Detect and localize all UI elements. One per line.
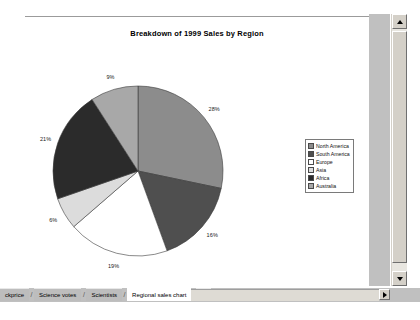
slice-label-asia: 6% xyxy=(49,217,57,223)
slice-label-north-america: 28% xyxy=(209,106,220,112)
legend-color-swatch-icon xyxy=(308,159,314,165)
legend-item-label: Australia xyxy=(316,182,336,190)
window-bottom-margin xyxy=(0,302,420,320)
sheet-tab-science-votes[interactable]: Science votes xyxy=(34,288,81,301)
window-right-margin xyxy=(407,0,420,320)
vertical-scrollbar[interactable] xyxy=(390,14,408,286)
scroll-up-button[interactable] xyxy=(392,14,407,29)
legend-item[interactable]: Europe xyxy=(308,158,350,166)
triangle-down-icon xyxy=(397,277,403,281)
legend-item[interactable]: South America xyxy=(308,150,350,158)
legend-item-label: Europe xyxy=(316,158,333,166)
chart-legend[interactable]: North America South America Europe Asia … xyxy=(305,139,354,193)
legend-item[interactable]: Australia xyxy=(308,182,350,190)
sheet-tab-label: Science votes xyxy=(39,292,76,298)
window-top-gutter xyxy=(0,0,420,14)
chart-sheet-canvas[interactable]: Breakdown of 1999 Sales by Region 28% 16… xyxy=(25,16,369,285)
sheet-tab-scientists[interactable]: Scientists xyxy=(86,288,122,301)
sheet-tab-ckprice[interactable]: ckprice xyxy=(0,288,29,301)
legend-item-label: North America xyxy=(316,142,349,150)
sheet-tab-bar: ckprice / Science votes / Scientists / R… xyxy=(0,288,420,302)
legend-color-swatch-icon xyxy=(308,175,314,181)
scroll-right-button[interactable] xyxy=(379,289,390,300)
legend-color-swatch-icon xyxy=(308,143,314,149)
sheet-tab-label: ckprice xyxy=(5,292,24,298)
sheet-tab-regional-sales-chart[interactable]: Regional sales chart xyxy=(127,288,191,301)
legend-color-swatch-icon xyxy=(308,167,314,173)
legend-item[interactable]: North America xyxy=(308,142,350,150)
sheet-right-margin xyxy=(369,14,390,286)
horizontal-scrollbar-track[interactable] xyxy=(161,289,379,301)
legend-color-swatch-icon xyxy=(308,151,314,157)
legend-item-label: Asia xyxy=(316,166,326,174)
slice-label-south-america: 16% xyxy=(207,232,218,238)
legend-item[interactable]: Asia xyxy=(308,166,350,174)
spreadsheet-window: Breakdown of 1999 Sales by Region 28% 16… xyxy=(0,0,420,320)
scroll-down-button[interactable] xyxy=(392,271,407,286)
sheet-tab-label: Regional sales chart xyxy=(132,292,186,298)
sheet-tab-strip[interactable]: ckprice / Science votes / Scientists / R… xyxy=(0,288,211,301)
pie-slice[interactable] xyxy=(138,86,223,188)
slice-label-africa: 21% xyxy=(40,136,51,142)
triangle-up-icon xyxy=(397,20,403,24)
legend-item-label: South America xyxy=(316,150,350,158)
vertical-scrollbar-thumb[interactable] xyxy=(392,31,407,263)
slice-label-europe: 19% xyxy=(108,263,119,269)
sheet-left-margin xyxy=(0,14,25,286)
slice-label-australia: 9% xyxy=(106,74,114,80)
legend-item[interactable]: Africa xyxy=(308,174,350,182)
legend-item-label: Africa xyxy=(316,174,329,182)
pie-slice-group xyxy=(53,86,223,256)
sheet-tab-label: Scientists xyxy=(91,292,117,298)
workbook-body: Breakdown of 1999 Sales by Region 28% 16… xyxy=(0,14,420,286)
triangle-right-icon xyxy=(383,292,387,298)
legend-color-swatch-icon xyxy=(308,183,314,189)
